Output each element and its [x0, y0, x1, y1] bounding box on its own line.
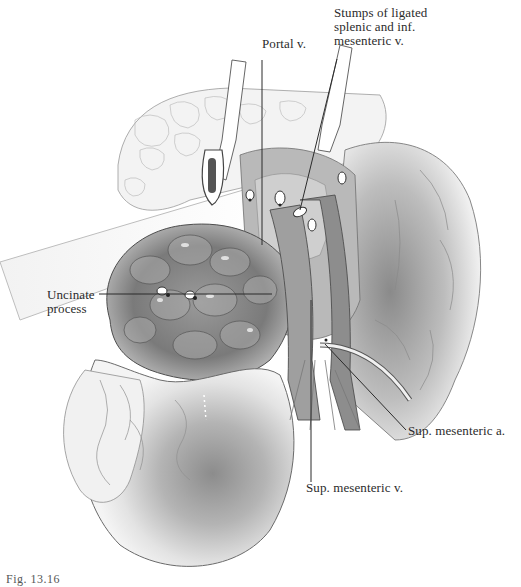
figure-caption: Fig. 13.16 [6, 572, 60, 587]
label-stumps-ligated-veins: Stumps of ligated splenic and inf. mesen… [334, 6, 427, 48]
label-uncinate-process: Uncinate process [47, 288, 95, 316]
label-sup-mesenteric-vein: Sup. mesenteric v. [306, 481, 403, 495]
label-sup-mesenteric-artery: Sup. mesenteric a. [408, 424, 505, 438]
label-portal-vein: Portal v. [262, 37, 306, 51]
